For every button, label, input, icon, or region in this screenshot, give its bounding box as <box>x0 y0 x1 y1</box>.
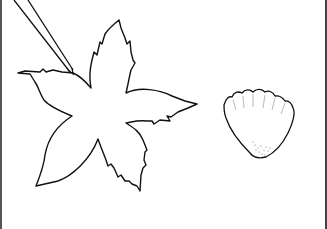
pointer-stick <box>14 0 73 74</box>
line-drawing <box>0 0 327 229</box>
illustration-canvas <box>0 0 327 229</box>
leaf-outline <box>18 20 197 191</box>
shell-petal <box>224 89 294 157</box>
